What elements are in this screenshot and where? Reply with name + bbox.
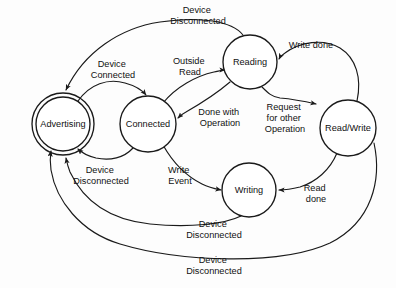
edge-label-request-other-operation: Request for other Operation: [265, 102, 305, 134]
edge-done-with-operation: Done with Operation: [178, 82, 242, 128]
edge-label-device-connected: Device Connected: [91, 59, 135, 80]
state-node-readwrite[interactable]: Read/Write: [320, 100, 376, 156]
edge-label-line: for other: [267, 113, 301, 123]
state-node-advertising[interactable]: Advertising: [32, 93, 94, 155]
edge-label-line: Write: [168, 165, 189, 175]
edge-label-line: Operation: [265, 124, 305, 134]
state-node-reading[interactable]: Reading: [223, 35, 277, 89]
state-diagram-canvas: Device Disconnected Device Connected Out…: [0, 0, 396, 288]
edge-label-line: Disconnected: [73, 176, 129, 186]
edge-read-done: Read done: [279, 153, 337, 204]
edge-label-line: Done with: [198, 107, 239, 117]
edge-device-disconnected-bottom: Device Disconnected: [50, 143, 376, 276]
state-node-writing-label: Writing: [235, 185, 263, 195]
state-node-connected-label: Connected: [126, 119, 170, 129]
edge-label-read-done: Read done: [304, 183, 329, 204]
edge-label-line: Operation: [200, 118, 240, 128]
edge-label-line: Device: [199, 255, 227, 265]
edge-device-disconnected-advertising: Device Disconnected: [73, 148, 133, 186]
edge-write-event: Write Event: [163, 145, 221, 190]
state-diagram-container: Device Disconnected Device Connected Out…: [0, 0, 396, 288]
edge-label-line: Write done: [289, 40, 333, 50]
edge-label-line: Outside: [173, 56, 205, 66]
edge-label-line: Disconnected: [170, 16, 226, 26]
edge-label-device-disconnected-bottom: Device Disconnected: [186, 255, 242, 276]
edge-label-line: Event: [168, 176, 192, 186]
state-node-readwrite-label: Read/Write: [325, 123, 371, 133]
edge-label-write-done: Write done: [289, 40, 333, 50]
edge-label-write-event: Write Event: [168, 165, 192, 186]
edge-label-device-disconnected-advertising: Device Disconnected: [73, 165, 129, 186]
edge-label-line: Device: [86, 165, 114, 175]
edge-label-line: Read: [179, 67, 201, 77]
edge-label-line: Request: [267, 102, 302, 112]
edge-label-outside-read: Outside Read: [173, 56, 207, 77]
state-node-reading-label: Reading: [233, 57, 267, 67]
edge-label-line: Disconnected: [186, 266, 242, 276]
edge-label-line: Device: [199, 219, 227, 229]
state-node-writing[interactable]: Writing: [222, 163, 276, 217]
state-node-connected[interactable]: Connected: [120, 96, 176, 152]
edge-outside-read: Outside Read: [163, 56, 225, 103]
edge-label-done-with-operation: Done with Operation: [198, 107, 241, 128]
edge-request-other-operation: Request for other Operation: [262, 87, 316, 134]
edge-label-line: Connected: [91, 70, 135, 80]
edge-device-connected: Device Connected: [78, 59, 146, 101]
edge-label-line: Disconnected: [186, 230, 242, 240]
state-node-advertising-label: Advertising: [40, 119, 85, 129]
edge-label-line: done: [306, 194, 326, 204]
edge-label-line: Device: [183, 5, 211, 15]
edge-label-line: Read: [304, 183, 326, 193]
edge-label-device-disconnected-top: Device Disconnected: [170, 5, 226, 26]
edge-label-device-disconnected-mid: Device Disconnected: [186, 219, 242, 240]
edge-write-done: Write done: [279, 40, 359, 101]
edge-label-line: Device: [98, 59, 126, 69]
